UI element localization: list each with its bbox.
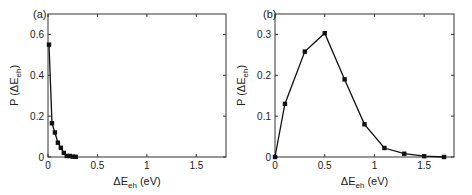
data-marker: [50, 121, 54, 125]
x-axis-label: ΔEeh (eV): [341, 175, 388, 190]
data-marker: [53, 130, 57, 134]
data-marker: [273, 155, 277, 159]
data-marker: [362, 122, 366, 126]
axes-frame: [275, 14, 454, 157]
x-tick-label: 0.5: [90, 160, 104, 171]
data-marker: [47, 42, 51, 46]
data-marker: [342, 77, 346, 81]
y-tick-label: 0: [265, 152, 271, 163]
x-tick-label: 0: [272, 160, 278, 171]
panel-label: (b): [263, 8, 276, 20]
y-tick-label: 0.2: [30, 111, 44, 122]
x-tick-label: 1.5: [417, 160, 431, 171]
y-tick-label: 0: [38, 152, 44, 163]
y-axis-label: P (ΔEeh): [235, 65, 250, 106]
y-axis-label: P (ΔEeh): [8, 65, 23, 106]
figure: 00.511.500.20.40.6(a)ΔEeh (eV)P (ΔEeh)00…: [0, 0, 472, 195]
x-tick-label: 1: [144, 160, 150, 171]
x-tick-label: 1.5: [189, 160, 203, 171]
data-line: [49, 45, 76, 157]
y-tick-label: 0.1: [257, 111, 271, 122]
data-line: [275, 33, 444, 157]
data-marker: [73, 155, 77, 159]
x-tick-label: 0: [45, 160, 51, 171]
data-marker: [323, 31, 327, 35]
data-marker: [442, 155, 446, 159]
panel-label: (a): [33, 8, 46, 20]
y-tick-label: 0.2: [257, 70, 271, 81]
x-tick-label: 1: [372, 160, 378, 171]
panel-b: 00.511.500.10.20.3(b)ΔEeh (eV)P (ΔEeh): [235, 8, 454, 190]
axes-frame: [48, 14, 226, 157]
data-marker: [402, 152, 406, 156]
y-tick-label: 0.6: [30, 29, 44, 40]
data-marker: [382, 146, 386, 150]
data-marker: [422, 154, 426, 158]
y-tick-label: 0.3: [257, 29, 271, 40]
y-tick-label: 0.4: [30, 70, 44, 81]
data-marker: [59, 146, 63, 150]
data-marker: [283, 102, 287, 106]
x-axis-label: ΔEeh (eV): [113, 175, 160, 190]
panel-a: 00.511.500.20.40.6(a)ΔEeh (eV)P (ΔEeh): [8, 8, 226, 190]
data-marker: [56, 141, 60, 145]
x-tick-label: 0.5: [318, 160, 332, 171]
data-marker: [303, 49, 307, 53]
